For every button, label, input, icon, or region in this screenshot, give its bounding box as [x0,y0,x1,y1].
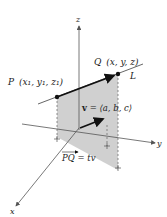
line-L-label: L [129,71,136,81]
vector-v-label: v = ⟨a, b, c⟩ [81,103,132,113]
point-P-label: P (x₁, y₁, z₁) [7,77,64,87]
point-Q [116,72,120,76]
line-in-space-diagram: z y x Q (x, y, z) L P (x₁, y₁, z₁) v = ⟨… [0,0,167,217]
x-axis [16,128,79,206]
y-axis-label: y [156,139,162,148]
z-axis-label: z [75,15,81,24]
pq-equation-label: PQ = tv [61,153,96,163]
point-P [55,95,59,99]
x-axis-label: x [10,207,15,216]
point-Q-label: Q (x, y, z) [94,57,139,67]
